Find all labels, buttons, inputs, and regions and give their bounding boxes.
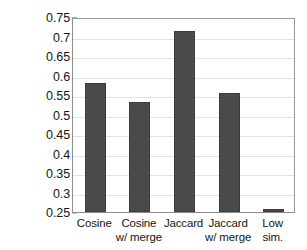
plot-area xyxy=(72,18,295,213)
y-axis-tick-label: 0.6 xyxy=(0,70,70,84)
bar-chart-figure: Probability 0.250.30.350.40.450.50.550.6… xyxy=(0,0,307,250)
y-axis-tick-label: 0.7 xyxy=(0,31,70,45)
bar xyxy=(174,31,195,212)
bar xyxy=(85,83,106,212)
x-axis-category-label: Low sim. xyxy=(246,217,299,244)
y-axis-tick-label: 0.75 xyxy=(0,11,70,25)
bar xyxy=(219,93,240,212)
y-axis-tick-label: 0.65 xyxy=(0,50,70,64)
y-axis-tick-label: 0.3 xyxy=(0,187,70,201)
y-axis-tick-label: 0.5 xyxy=(0,109,70,123)
y-axis-tick-label: 0.25 xyxy=(0,206,70,220)
y-axis-tick-label: 0.55 xyxy=(0,89,70,103)
y-axis-tick-label: 0.35 xyxy=(0,167,70,181)
y-axis-tick-label: 0.4 xyxy=(0,148,70,162)
bar xyxy=(129,102,150,212)
bar xyxy=(263,209,284,212)
y-axis-tick-label: 0.45 xyxy=(0,128,70,142)
